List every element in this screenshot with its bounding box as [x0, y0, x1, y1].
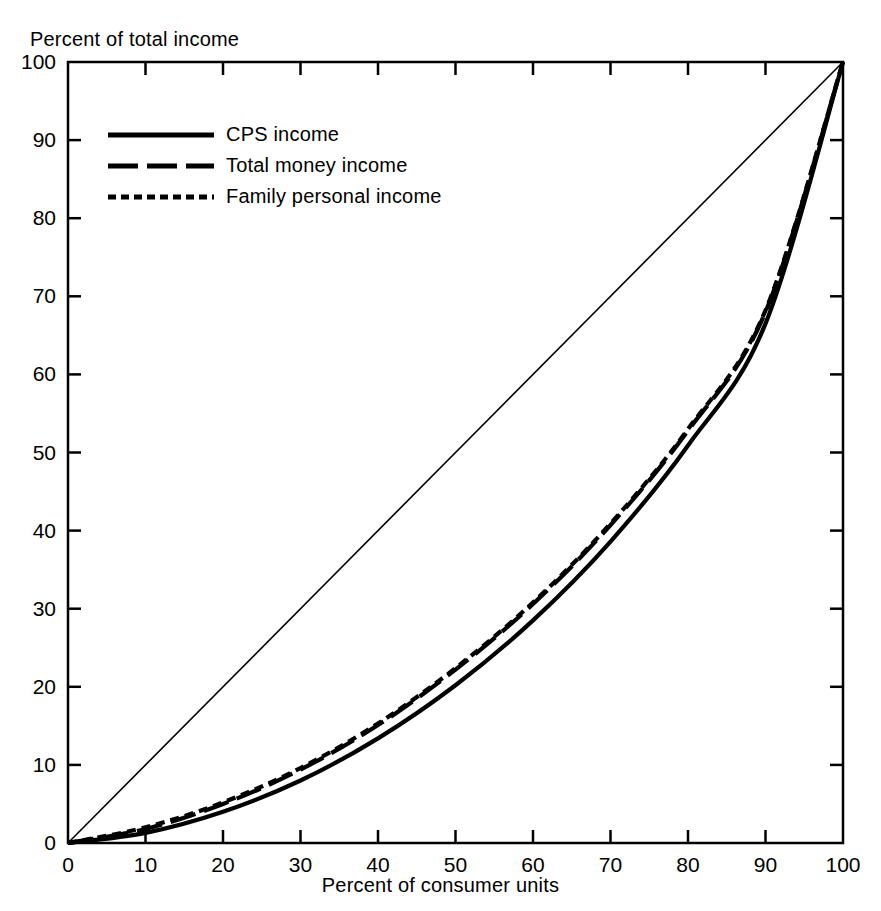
x-tick-label: 80	[676, 853, 699, 877]
x-tick-label: 60	[521, 853, 544, 877]
legend-label-cps-income: CPS income	[226, 123, 339, 146]
y-tick-label: 20	[33, 675, 56, 699]
y-tick-label: 30	[33, 597, 56, 621]
x-tick-label: 70	[599, 853, 622, 877]
y-tick-label: 70	[33, 284, 56, 308]
y-axis-title: Percent of total income	[30, 28, 239, 51]
legend-label-total-money-income: Total money income	[226, 154, 407, 177]
x-tick-label: 40	[366, 853, 389, 877]
y-tick-label: 40	[33, 519, 56, 543]
x-tick-label: 20	[211, 853, 234, 877]
legend-label-family-personal-income: Family personal income	[226, 185, 442, 208]
legend: CPS income Total money income Family per…	[106, 122, 466, 215]
x-tick-label: 10	[134, 853, 157, 877]
lorenz-curve-figure: Percent of total income Percent of consu…	[0, 0, 881, 911]
legend-swatch-long-dash	[106, 160, 216, 172]
legend-item: CPS income	[106, 122, 466, 147]
legend-swatch-solid	[106, 129, 216, 141]
x-tick-label: 0	[62, 853, 74, 877]
x-tick-label: 100	[825, 853, 860, 877]
legend-swatch-short-dash	[106, 191, 216, 203]
legend-item: Family personal income	[106, 184, 466, 209]
legend-item: Total money income	[106, 153, 466, 178]
x-axis-title: Percent of consumer units	[0, 874, 881, 897]
x-tick-label: 30	[289, 853, 312, 877]
y-tick-label: 90	[33, 128, 56, 152]
y-tick-label: 50	[33, 441, 56, 465]
y-tick-label: 0	[44, 831, 56, 855]
y-tick-label: 60	[33, 362, 56, 386]
y-tick-label: 10	[33, 753, 56, 777]
y-tick-label: 80	[33, 206, 56, 230]
y-tick-label: 100	[21, 50, 56, 74]
x-tick-label: 90	[754, 853, 777, 877]
x-tick-label: 50	[444, 853, 467, 877]
